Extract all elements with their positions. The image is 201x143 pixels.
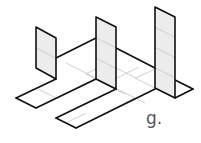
isometric-figure <box>0 0 201 143</box>
grid-line <box>135 78 155 88</box>
left-panel <box>36 27 56 79</box>
middle-panel <box>96 17 116 89</box>
figure-label: g. <box>146 108 162 128</box>
grid-line <box>36 88 56 98</box>
floor-edge <box>76 89 155 128</box>
grid-line <box>66 113 86 123</box>
floor-edge <box>16 98 36 108</box>
grid-line <box>136 69 155 78</box>
wall-panels <box>36 7 175 98</box>
right-panel <box>155 7 175 98</box>
middle-panel-face <box>96 17 116 89</box>
